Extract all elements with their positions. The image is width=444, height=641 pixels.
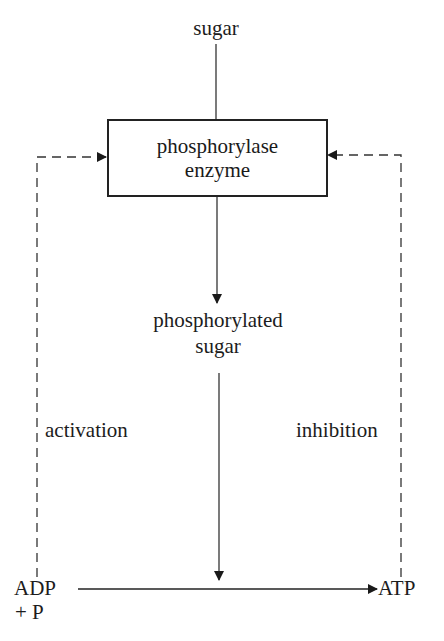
- activation-feedback-arrow: [37, 157, 106, 577]
- phosphorylated-sugar-label-line1: phosphorylated: [138, 308, 298, 332]
- phosphorylated-sugar-label-line2: sugar: [138, 334, 298, 358]
- enzyme-label-line1: phosphorylase: [157, 134, 278, 158]
- activation-label: activation: [45, 418, 128, 442]
- inhibition-feedback-arrow: [328, 155, 401, 577]
- phosphate-label: + P: [15, 600, 44, 624]
- enzyme-label-line2: enzyme: [185, 158, 250, 182]
- sugar-label: sugar: [186, 16, 246, 40]
- atp-label: ATP: [378, 576, 415, 600]
- inhibition-label: inhibition: [296, 418, 378, 442]
- adp-label: ADP: [14, 576, 56, 600]
- phosphorylase-enzyme-box: phosphorylase enzyme: [107, 119, 328, 197]
